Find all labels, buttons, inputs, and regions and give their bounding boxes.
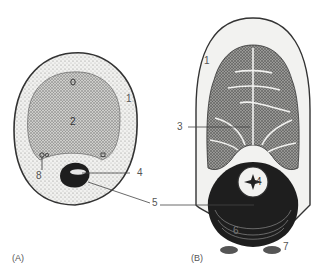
- panel-b-label-6: 6: [233, 226, 239, 236]
- panel-b-label-7: 7: [283, 242, 289, 252]
- panel-a-label-8: 8: [36, 171, 42, 181]
- panel-a-label-2: 2: [70, 117, 76, 127]
- panel-a-illustration: [14, 53, 150, 205]
- panel-a-caption: (A): [12, 253, 24, 263]
- figure-canvas: [0, 0, 323, 274]
- panel-a-label-5: 5: [152, 198, 158, 208]
- panel-a-label-1: 1: [126, 94, 132, 104]
- panel-a-label-4: 4: [137, 168, 143, 178]
- panel-b-label-4: 4: [256, 177, 262, 187]
- panel-b-illustration: [160, 18, 310, 254]
- panel-b-label-1: 1: [204, 56, 210, 66]
- panel-b-label-3: 3: [177, 122, 183, 132]
- panel-b-caption: (B): [191, 253, 203, 263]
